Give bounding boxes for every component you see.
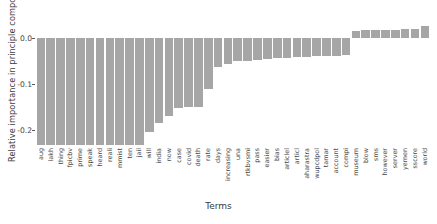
bar[interactable] xyxy=(125,38,134,145)
x-axis-tick-label: easier xyxy=(263,148,271,168)
x-tick-slot: aug xyxy=(36,147,46,197)
bar[interactable] xyxy=(106,38,115,145)
bar-slot xyxy=(95,22,105,146)
y-axis-tick-labels: 0.0-0.1-0.2 xyxy=(6,0,32,224)
x-tick-slot: bias xyxy=(272,147,282,197)
x-tick-slot: wupcdpol xyxy=(312,147,322,197)
x-axis-tick-label: lakh xyxy=(47,148,55,161)
bar-slot xyxy=(203,22,213,146)
bar[interactable] xyxy=(243,38,252,61)
bar[interactable] xyxy=(342,38,351,55)
bar[interactable] xyxy=(312,38,321,56)
bar[interactable] xyxy=(56,38,65,145)
bar[interactable] xyxy=(165,38,174,116)
x-tick-slot: aharastra xyxy=(302,147,312,197)
bar[interactable] xyxy=(76,38,85,145)
bar-slot xyxy=(164,22,174,146)
bar[interactable] xyxy=(204,38,213,89)
bar[interactable] xyxy=(145,38,154,132)
bar[interactable] xyxy=(214,38,223,66)
bar-slot xyxy=(56,22,66,146)
bar-slot xyxy=(400,22,410,146)
bar[interactable] xyxy=(155,38,164,123)
x-axis-tick-label: will xyxy=(145,148,153,159)
bar[interactable] xyxy=(66,38,75,145)
bar[interactable] xyxy=(322,38,331,56)
bar-slot xyxy=(272,22,282,146)
x-tick-slot: server xyxy=(390,147,400,197)
x-tick-slot: easier xyxy=(262,147,272,197)
bar[interactable] xyxy=(233,38,242,61)
bar[interactable] xyxy=(224,38,233,64)
x-tick-slot: death xyxy=(194,147,204,197)
x-tick-slot: will xyxy=(144,147,154,197)
bar-slot xyxy=(282,22,292,146)
bar-slot xyxy=(420,22,430,146)
bar[interactable] xyxy=(115,38,124,145)
bar[interactable] xyxy=(352,31,361,38)
x-axis-tick-label: aug xyxy=(37,148,45,160)
bar-slot xyxy=(46,22,56,146)
x-tick-slot: rate xyxy=(203,147,213,197)
x-axis-tick-label: museum xyxy=(352,148,360,176)
bar[interactable] xyxy=(184,38,193,107)
bar[interactable] xyxy=(253,38,262,60)
bar[interactable] xyxy=(401,29,410,38)
bar[interactable] xyxy=(283,38,292,58)
bar[interactable] xyxy=(391,30,400,38)
bar[interactable] xyxy=(273,38,282,58)
bar[interactable] xyxy=(46,38,55,145)
bar[interactable] xyxy=(381,30,390,38)
bar[interactable] xyxy=(96,38,105,145)
bar[interactable] xyxy=(361,30,370,38)
x-axis-tick-label: now xyxy=(165,148,173,161)
bar-slot xyxy=(154,22,164,146)
bar[interactable] xyxy=(332,38,341,55)
x-axis-tick-label: fpicbv xyxy=(66,148,74,167)
x-tick-slot: world xyxy=(420,147,430,197)
bar-slot xyxy=(194,22,204,146)
x-axis-tick-label: compi xyxy=(342,148,350,167)
x-axis-tick-label: jail xyxy=(135,148,143,157)
bar[interactable] xyxy=(371,30,380,38)
bar-slot xyxy=(410,22,420,146)
x-tick-slot: rtkbvsmi xyxy=(243,147,253,197)
x-axis-tick-label: death xyxy=(194,148,202,166)
x-tick-slot: account xyxy=(331,147,341,197)
bar-slot xyxy=(36,22,46,146)
bar[interactable] xyxy=(411,29,420,38)
x-tick-slot: articlel xyxy=(282,147,292,197)
x-tick-slot: india xyxy=(154,147,164,197)
bar[interactable] xyxy=(37,38,46,145)
x-tick-slot: reali xyxy=(105,147,115,197)
x-tick-slot: fpicbv xyxy=(66,147,76,197)
bar[interactable] xyxy=(302,38,311,57)
bar[interactable] xyxy=(194,38,203,107)
x-tick-slot: articl xyxy=(292,147,302,197)
bar-slot xyxy=(105,22,115,146)
x-axis-tick-label: mmist xyxy=(116,148,124,168)
x-tick-slot: speak xyxy=(85,147,95,197)
x-axis-tick-label: aharastra xyxy=(303,148,311,179)
x-tick-slot: museum xyxy=(351,147,361,197)
bar[interactable] xyxy=(174,38,183,108)
x-tick-slot: thing xyxy=(56,147,66,197)
x-axis-tick-label: server xyxy=(391,148,399,168)
bar-slot xyxy=(292,22,302,146)
x-axis-tick-label: thing xyxy=(57,148,65,164)
x-tick-slot: jail xyxy=(134,147,144,197)
bar[interactable] xyxy=(421,26,430,38)
x-axis-tick-label: reali xyxy=(106,148,114,162)
bar[interactable] xyxy=(263,38,272,59)
bar-slot xyxy=(85,22,95,146)
bar[interactable] xyxy=(135,38,144,145)
x-axis-tick-label: bias xyxy=(273,148,281,161)
x-axis-tick-label: india xyxy=(155,148,163,164)
bar[interactable] xyxy=(293,38,302,57)
x-axis-tick-labels: auglakhthingfpicbvprimespeakheardrealimm… xyxy=(36,147,430,197)
bar[interactable] xyxy=(86,38,95,145)
x-axis-tick-label: case xyxy=(175,148,183,163)
x-axis-tick-label: however xyxy=(381,148,389,175)
x-axis-tick-label: covid xyxy=(185,148,193,165)
y-axis-tick-mark xyxy=(32,130,35,131)
